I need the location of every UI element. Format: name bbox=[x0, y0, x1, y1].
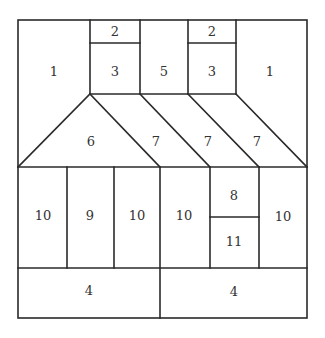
piece-10-c-label: 10 bbox=[176, 208, 193, 223]
piece-7-a-label: 7 bbox=[152, 134, 160, 149]
piece-10-b-label: 10 bbox=[129, 208, 146, 223]
piece-1-right-label: 1 bbox=[266, 64, 274, 79]
piece-8-label: 8 bbox=[230, 188, 238, 203]
piece-5-label: 5 bbox=[160, 64, 168, 79]
piece-10-d-label: 10 bbox=[275, 209, 292, 224]
piece-7-c-label: 7 bbox=[253, 134, 261, 149]
piece-7-b-label: 7 bbox=[204, 134, 212, 149]
piece-3-right-label: 3 bbox=[208, 64, 216, 79]
piece-4-left-label: 4 bbox=[85, 283, 93, 298]
quilt-block-diagram: 1 2 3 5 2 3 1 6 7 7 7 10 9 10 10 8 11 10… bbox=[0, 0, 325, 338]
piece-11-label: 11 bbox=[226, 234, 243, 249]
piece-3-left-label: 3 bbox=[111, 64, 119, 79]
piece-2-left-label: 2 bbox=[111, 24, 119, 39]
piece-2-right-label: 2 bbox=[208, 24, 216, 39]
piece-9-label: 9 bbox=[86, 208, 94, 223]
diagonal-7-c bbox=[236, 94, 307, 167]
piece-6-label: 6 bbox=[87, 134, 95, 149]
piece-4-right-label: 4 bbox=[230, 284, 238, 299]
triangle-6-left-side bbox=[18, 94, 90, 167]
piece-1-left-label: 1 bbox=[50, 64, 58, 79]
piece-10-a-label: 10 bbox=[35, 208, 52, 223]
